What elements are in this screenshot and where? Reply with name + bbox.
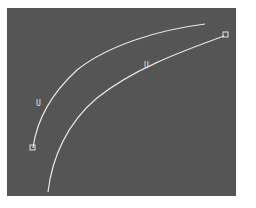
upper-curve[interactable] — [33, 24, 205, 148]
lower-curve-label: U — [144, 62, 149, 70]
drawing-canvas[interactable]: U U — [7, 8, 236, 196]
lower-curve[interactable] — [48, 36, 224, 192]
curves-layer — [7, 8, 236, 196]
upper-curve-label: U — [36, 100, 41, 108]
